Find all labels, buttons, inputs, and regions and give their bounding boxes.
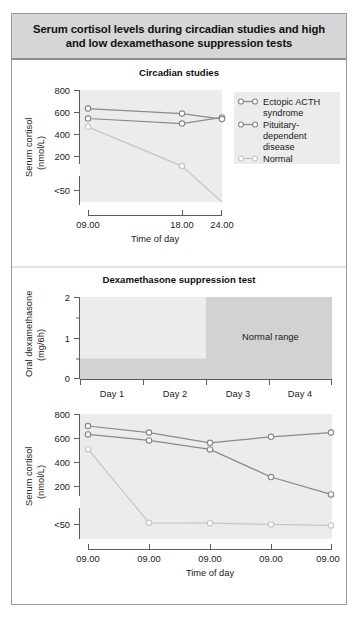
circadian-plot-bg [80,90,222,202]
circadian-point-ectopic-3 [219,116,224,121]
dexcort-ylabel-800: 800 [54,410,70,420]
circadian-xlabel-3: 24.00 [210,220,233,230]
legend-swatch-marker-pituitary-1 [239,122,244,127]
dex-dose-svg: Normal range 2 1 0 Oral dexamethasone (m… [12,289,346,401]
legend-swatch-marker-pituitary-2 [253,122,258,127]
dexcort-point-normal-3 [207,521,212,526]
dex-yaxis-title-line2: (mg/6h) [36,329,46,361]
circadian-ylabel-800: 800 [54,86,70,96]
circadian-point-normal-2 [179,163,184,168]
circadian-yaxis-title-line1: Serum cortisol [24,118,34,177]
dexcort-point-normal-2 [146,520,151,525]
dexcort-ylabel-lt50: <50 [54,520,70,530]
legend-label-pituitary-line3: disease [263,142,295,152]
dex-xlabel-day1: Day 1 [100,389,124,399]
dexcort-point-ectopic-1 [85,423,90,428]
circadian-ylabel-200: 200 [54,152,70,162]
legend-label-pituitary-line2: dependent [263,131,307,141]
circadian-xaxis-title: Time of day [131,234,180,244]
dexcort-ylabel-200: 200 [54,482,70,492]
figure-container: Serum cortisol levels during circadian s… [11,13,347,605]
dexcort-xaxis-title: Time of day [186,568,235,578]
dexcort-yaxis-title-line2: (nmol/L) [36,465,46,499]
circadian-point-normal-1 [85,124,90,129]
circadian-point-ectopic-2 [179,111,184,116]
legend-label-ectopic-line2: syndrome [263,108,303,118]
dexcort-point-ectopic-3 [207,440,212,445]
dexcort-ylabel-400: 400 [54,458,70,468]
legend-swatch-marker-ectopic-1 [239,99,244,104]
dexcort-ylabel-600: 600 [54,434,70,444]
dex-yaxis-title-line1: Oral dexamethasone [24,291,34,377]
chart-circadian-studies: 800 600 400 200 <50 Serum cortisol (nmol… [12,80,346,265]
dex-region-low-dose [80,359,206,380]
dex-cortisol-svg: 800 600 400 200 <50 Serum cortisol (nmol… [12,404,346,594]
panel-title-dexamethasone: Dexamethasone suppression test [12,274,346,285]
dexcort-point-ectopic-5 [328,430,333,435]
dexcort-point-normal-4 [268,522,273,527]
dexcort-point-pituitary-1 [85,432,90,437]
dex-xlabel-day3: Day 3 [226,389,250,399]
dex-ylabel-1: 1 [65,334,70,344]
chart-dexamethasone-cortisol: 800 600 400 200 <50 Serum cortisol (nmol… [12,404,346,594]
dexcort-xlabel-1: 09.00 [76,554,99,564]
circadian-xlabel-1: 09.00 [76,220,99,230]
dexcort-point-ectopic-4 [268,434,273,439]
dexcort-point-pituitary-3 [207,447,212,452]
circadian-yaxis-title-line2: (nmol/L) [36,136,46,170]
dexcort-point-pituitary-5 [328,492,333,497]
dexcort-point-pituitary-4 [268,474,273,479]
dexcort-xlabel-2: 09.00 [137,554,160,564]
dexcort-xlabel-3: 09.00 [198,554,221,564]
dexcort-plot-bg [80,414,332,539]
legend-swatch-marker-normal-1 [239,156,244,161]
legend-label-pituitary-line1: Pituitary- [263,120,299,130]
circadian-point-ectopic-1 [85,106,90,111]
circadian-xlabel-2: 18.00 [170,220,193,230]
dexcort-xlabel-4: 09.00 [259,554,282,564]
dexcort-point-normal-5 [328,523,333,528]
circadian-ylabel-lt50: <50 [54,186,70,196]
circadian-ylabel-600: 600 [54,108,70,118]
chart-dexamethasone-dose: Normal range 2 1 0 Oral dexamethasone (m… [12,289,346,401]
circadian-point-pituitary-2 [179,121,184,126]
legend-label-normal: Normal [263,154,293,164]
dex-xlabel-day2: Day 2 [163,389,187,399]
legend-swatch-marker-normal-2 [253,156,258,161]
dexcort-point-normal-1 [85,447,90,452]
dexcort-xlabel-5: 09.00 [316,554,339,564]
circadian-point-pituitary-1 [85,116,90,121]
legend-label-ectopic-line1: Ectopic ACTH [263,97,320,107]
dex-ylabel-0: 0 [65,374,70,384]
figure-title: Serum cortisol levels during circadian s… [12,22,346,51]
dex-xlabel-day4: Day 4 [288,389,312,399]
dex-normal-range-annotation: Normal range [242,331,299,342]
figure-title-bar: Serum cortisol levels during circadian s… [12,14,346,60]
panel-divider-1 [12,266,346,268]
dexcort-yaxis-title-line1: Serum cortisol [24,447,34,506]
legend-swatch-marker-ectopic-2 [253,99,258,104]
circadian-svg: 800 600 400 200 <50 Serum cortisol (nmol… [12,80,346,265]
dex-ylabel-2: 2 [65,293,70,303]
dexcort-point-ectopic-2 [146,430,151,435]
circadian-ylabel-400: 400 [54,130,70,140]
dexcort-point-pituitary-2 [146,438,151,443]
panel-title-circadian: Circadian studies [12,67,346,78]
